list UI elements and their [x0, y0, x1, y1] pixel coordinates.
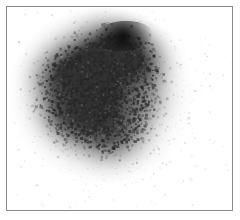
figure-margin-right — [233, 0, 240, 220]
figure-root — [0, 0, 240, 220]
specimen-image — [7, 7, 232, 210]
specimen-plate-frame — [6, 6, 233, 211]
figure-margin-bottom — [0, 211, 240, 220]
